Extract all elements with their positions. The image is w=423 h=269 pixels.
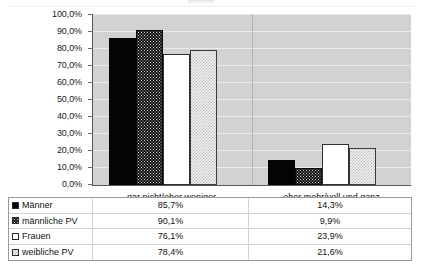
legend-label: männliche PV (22, 216, 78, 226)
legend-data-table: Männer 85,7% 14,3% männliche PV 90,1% 9,… (8, 197, 412, 261)
bar-series-container (93, 14, 411, 185)
y-axis-tick: 70,0% (57, 61, 82, 70)
table-row: männliche PV 90,1% 9,9% (9, 214, 411, 230)
bar-maenner-g1 (109, 38, 136, 185)
y-axis-tick: 20,0% (57, 146, 82, 155)
legend-swatch-dark-dotted-icon (12, 217, 19, 224)
plot-area (92, 14, 411, 186)
table-row: Frauen 76,1% 23,9% (9, 229, 411, 245)
bar-frauen-g1 (163, 54, 190, 185)
truncated-title-remnant (188, 0, 214, 4)
bar-maenner-g2 (268, 160, 295, 185)
table-row: weibliche PV 78,4% 21,6% (9, 245, 411, 261)
bar-weibliche-pv-g1 (190, 50, 217, 185)
legend-entry-weibliche-pv: weibliche PV (9, 245, 93, 261)
bar-maennliche-pv-g2 (295, 168, 322, 185)
table-cell-value: 14,3% (249, 198, 411, 213)
bar-frauen-g2 (322, 144, 349, 185)
y-axis-tick: 10,0% (57, 163, 82, 172)
y-axis-tick: 40,0% (57, 112, 82, 121)
legend-swatch-white-icon (12, 233, 19, 240)
legend-label: Männer (22, 200, 53, 210)
y-axis-tick: 80,0% (57, 44, 82, 53)
legend-label: weibliche PV (22, 247, 74, 257)
bar-chart: 100,0% 90,0% 80,0% 70,0% 60,0% 50,0% 40,… (0, 8, 423, 196)
y-axis-tick: 60,0% (57, 78, 82, 87)
bar-weibliche-pv-g2 (349, 148, 376, 185)
bar-maennliche-pv-g1 (136, 30, 163, 185)
legend-entry-maennliche-pv: männliche PV (9, 214, 93, 229)
y-axis-tick: 50,0% (57, 95, 82, 104)
table-cell-value: 23,9% (249, 229, 411, 244)
table-cell-value: 90,1% (93, 214, 249, 229)
legend-swatch-light-checker-icon (12, 249, 19, 256)
legend-swatch-solid-icon (12, 202, 19, 209)
y-axis-tick: 0,0% (62, 180, 82, 189)
table-cell-value: 76,1% (93, 229, 249, 244)
legend-entry-maenner: Männer (9, 198, 93, 213)
chart-page: 100,0% 90,0% 80,0% 70,0% 60,0% 50,0% 40,… (0, 0, 423, 269)
table-cell-value: 85,7% (93, 198, 249, 213)
y-axis-labels: 100,0% 90,0% 80,0% 70,0% 60,0% 50,0% 40,… (0, 8, 86, 182)
legend-label: Frauen (22, 231, 51, 241)
table-row: Männer 85,7% 14,3% (9, 198, 411, 214)
table-cell-value: 9,9% (249, 214, 411, 229)
table-cell-value: 78,4% (93, 245, 249, 261)
table-cell-value: 21,6% (249, 245, 411, 261)
legend-entry-frauen: Frauen (9, 229, 93, 244)
y-axis-tick: 100,0% (52, 10, 82, 19)
y-axis-tick: 90,0% (57, 27, 82, 36)
y-axis-tick: 30,0% (57, 129, 82, 138)
title-divider (8, 6, 415, 7)
